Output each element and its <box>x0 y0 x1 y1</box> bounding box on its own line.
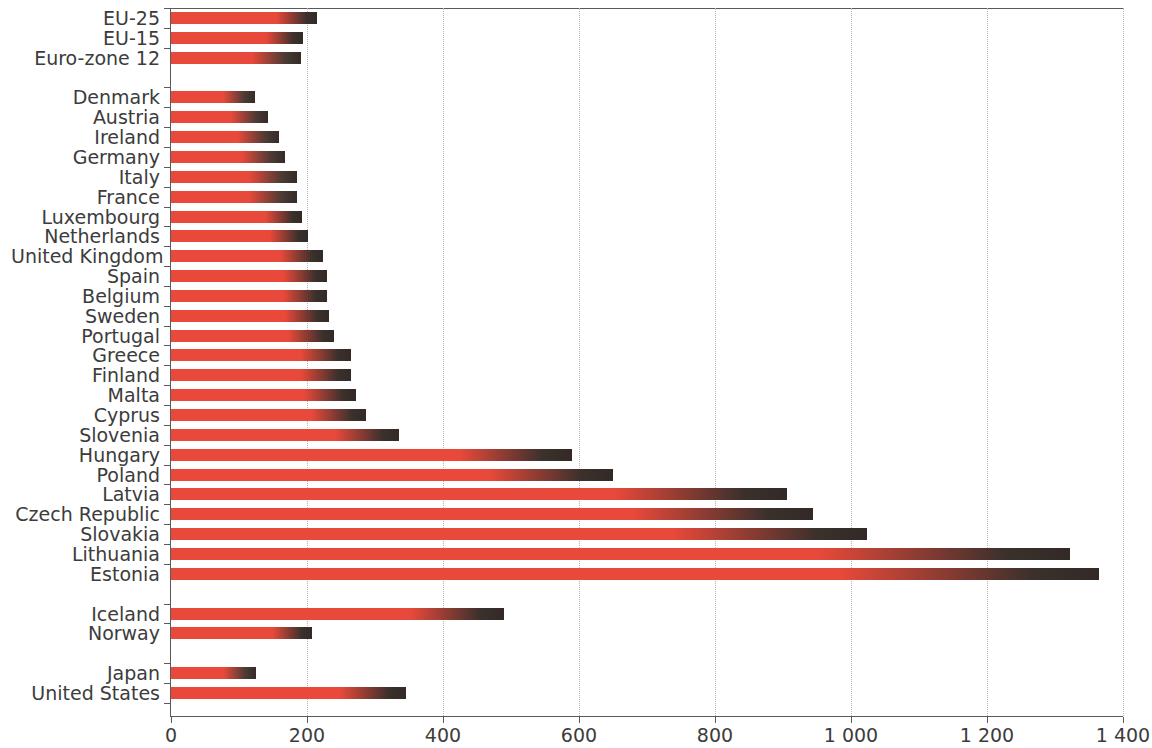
bar-row: Iceland <box>0 604 1152 624</box>
bar <box>171 369 351 381</box>
category-label: Sweden <box>11 306 171 326</box>
category-label: Poland <box>11 465 171 485</box>
bar-row: Italy <box>0 167 1152 187</box>
category-label-wrap: Spain <box>0 266 171 286</box>
x-axis-tick-label: 600 <box>561 724 597 746</box>
bar <box>171 349 351 361</box>
bar-row: Slovakia <box>0 524 1152 544</box>
category-label-wrap: Austria <box>0 107 171 127</box>
bar-chart: 02004006008001 0001 2001 400 EU-25EU-15E… <box>0 0 1152 748</box>
category-label: EU-25 <box>11 8 171 28</box>
category-label: Latvia <box>11 484 171 504</box>
category-label: Euro-zone 12 <box>11 48 171 68</box>
bar-row: Japan <box>0 663 1152 683</box>
category-label-wrap: Denmark <box>0 87 171 107</box>
category-label-wrap: Belgium <box>0 286 171 306</box>
x-axis-tick-label: 200 <box>289 724 325 746</box>
bar-row: Hungary <box>0 445 1152 465</box>
category-label-wrap: Finland <box>0 365 171 385</box>
bar-row: Euro-zone 12 <box>0 48 1152 68</box>
category-label-wrap: United States <box>0 683 171 703</box>
bar-row: Sweden <box>0 306 1152 326</box>
value-axis-line <box>171 716 1123 717</box>
bar-row: Malta <box>0 385 1152 405</box>
category-tick <box>164 703 171 704</box>
bar-row: Belgium <box>0 286 1152 306</box>
category-label-wrap: Iceland <box>0 604 171 624</box>
category-label-wrap: Czech Republic <box>0 504 171 524</box>
category-label: United States <box>11 683 171 703</box>
x-axis-tick <box>171 717 172 723</box>
category-label-wrap: EU-15 <box>0 28 171 48</box>
bar <box>171 52 301 64</box>
bar <box>171 230 308 242</box>
category-label-wrap: Japan <box>0 663 171 683</box>
category-label: EU-15 <box>11 28 171 48</box>
category-label: Malta <box>11 385 171 405</box>
bar <box>171 548 1070 560</box>
x-axis-tick <box>851 717 852 723</box>
bar-row: Lithuania <box>0 544 1152 564</box>
bar <box>171 469 613 481</box>
bar <box>171 687 406 699</box>
category-label-wrap: France <box>0 187 171 207</box>
category-label: Lithuania <box>11 544 171 564</box>
category-label-wrap: Cyprus <box>0 405 171 425</box>
bar <box>171 32 303 44</box>
category-label-wrap: Euro-zone 12 <box>0 48 171 68</box>
bar-row: EU-15 <box>0 28 1152 48</box>
category-label: Hungary <box>11 445 171 465</box>
x-axis-tick-label: 400 <box>425 724 461 746</box>
category-label: Portugal <box>11 326 171 346</box>
category-label-wrap: Greece <box>0 345 171 365</box>
bar <box>171 131 279 143</box>
bar <box>171 290 327 302</box>
category-label: Cyprus <box>11 405 171 425</box>
x-axis-tick-label: 1 400 <box>1096 724 1150 746</box>
x-axis-tick <box>579 717 580 723</box>
bar-row: Estonia <box>0 564 1152 584</box>
bar-row: Norway <box>0 623 1152 643</box>
category-label-wrap: Luxembourg <box>0 207 171 227</box>
x-axis-tick <box>443 717 444 723</box>
bar-row: Latvia <box>0 484 1152 504</box>
category-label: Belgium <box>11 286 171 306</box>
category-label: Japan <box>11 663 171 683</box>
bar <box>171 12 317 24</box>
category-label-wrap: EU-25 <box>0 8 171 28</box>
bar <box>171 310 329 322</box>
category-label-wrap: Hungary <box>0 445 171 465</box>
x-axis-tick <box>1123 717 1124 723</box>
bar <box>171 429 399 441</box>
category-label-wrap: Norway <box>0 623 171 643</box>
category-label: Spain <box>11 266 171 286</box>
bar <box>171 449 572 461</box>
bar-row: Spain <box>0 266 1152 286</box>
bar <box>171 91 255 103</box>
bar-row: Cyprus <box>0 405 1152 425</box>
bar-row: Luxembourg <box>0 207 1152 227</box>
category-label-wrap: Malta <box>0 385 171 405</box>
category-label-wrap: Lithuania <box>0 544 171 564</box>
x-axis-tick-label: 800 <box>697 724 733 746</box>
category-label: Luxembourg <box>11 207 171 227</box>
bar-row: Ireland <box>0 127 1152 147</box>
bar <box>171 627 312 639</box>
category-label: Slovakia <box>11 524 171 544</box>
category-label-wrap: Slovakia <box>0 524 171 544</box>
category-label: Greece <box>11 345 171 365</box>
bar <box>171 211 302 223</box>
bar <box>171 330 334 342</box>
category-label: Austria <box>11 107 171 127</box>
category-label: Slovenia <box>11 425 171 445</box>
category-label-wrap: Slovenia <box>0 425 171 445</box>
bar <box>171 488 787 500</box>
category-label: Finland <box>11 365 171 385</box>
category-label: Norway <box>11 623 171 643</box>
category-label: Denmark <box>11 87 171 107</box>
category-label-wrap: Poland <box>0 465 171 485</box>
x-axis-tick <box>307 717 308 723</box>
bar-row: EU-25 <box>0 8 1152 28</box>
bar <box>171 171 297 183</box>
x-axis-tick <box>987 717 988 723</box>
